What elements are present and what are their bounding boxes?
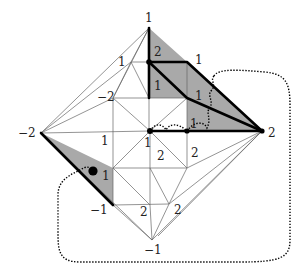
label-shaded-low-1: 1 [190, 117, 198, 131]
label-left-mid-1: 1 [101, 134, 109, 148]
vertex-dot-upper [146, 59, 152, 65]
label-center-1: 1 [144, 136, 152, 150]
label-upper-left-a: 1 [118, 55, 126, 69]
label-left-shade-1: 1 [102, 169, 110, 183]
label-bottom: −1 [144, 243, 162, 257]
label-lower-left-neg1: −1 [90, 203, 108, 217]
label-center-low-2: 2 [157, 149, 165, 163]
label-upper-left-b: −2 [97, 90, 115, 104]
triangulation-diagram: 1 −2 2 −1 1 −2 2 1 1 1 1 1 1 2 2 1 −1 2 … [0, 0, 306, 278]
label-shaded-inner-1: 1 [154, 79, 162, 93]
label-shaded-top-2: 2 [154, 45, 162, 59]
label-shaded-mid-1: 1 [195, 89, 203, 103]
label-left: −2 [18, 126, 36, 140]
vertex-dot-right [259, 128, 264, 133]
label-bottom-2a: 2 [140, 205, 148, 219]
vertex-dot-center [147, 128, 153, 134]
label-top: 1 [145, 11, 153, 25]
diagram-svg: 1 −2 2 −1 1 −2 2 1 1 1 1 1 1 2 2 1 −1 2 … [0, 0, 306, 278]
marker-dot [88, 166, 97, 175]
vertex-dot-right-inner [184, 128, 189, 133]
label-right: 2 [268, 126, 276, 140]
label-bottom-2b: 2 [174, 203, 182, 217]
label-right-low-2: 2 [191, 146, 199, 160]
label-shaded-top-right-1: 1 [195, 53, 203, 67]
